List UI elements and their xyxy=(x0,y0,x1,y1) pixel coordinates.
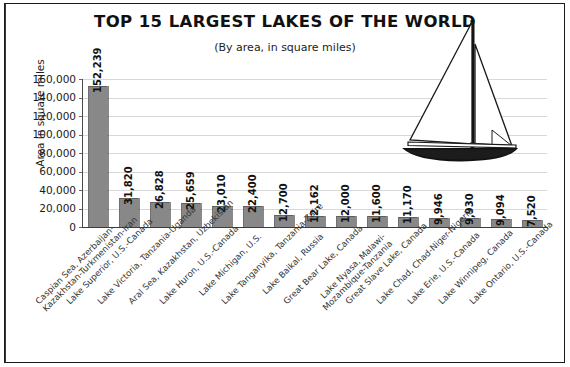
y-tick-label: 40,000 xyxy=(14,184,76,196)
y-tick-label: 100,000 xyxy=(14,128,76,140)
bar-value-label: 11,170 xyxy=(402,185,413,224)
bar-value-label: 11,600 xyxy=(371,185,382,224)
y-tick-label: 60,000 xyxy=(14,165,76,177)
y-tick-label: 160,000 xyxy=(14,73,76,85)
y-tick-label: 120,000 xyxy=(14,110,76,122)
gridline xyxy=(82,172,547,173)
x-axis-line xyxy=(82,227,548,228)
y-tick-label: 80,000 xyxy=(14,147,76,159)
bar xyxy=(88,86,107,227)
bar-value-label: 26,828 xyxy=(154,171,165,210)
bar-value-label: 22,400 xyxy=(247,175,258,214)
bar-value-label: 9,094 xyxy=(495,194,506,226)
bar-value-label: 7,520 xyxy=(526,195,537,227)
y-tick-label: 140,000 xyxy=(14,91,76,103)
chart-page: TOP 15 LARGEST LAKES OF THE WORLD (By ar… xyxy=(0,0,570,367)
bar-value-label: 9,946 xyxy=(433,193,444,225)
y-tick-label: 20,000 xyxy=(14,202,76,214)
y-tick-label: 0 xyxy=(14,221,76,233)
sailboat-illustration xyxy=(396,18,524,164)
y-axis-line xyxy=(82,79,83,228)
bar-value-label: 152,239 xyxy=(92,48,103,94)
bar-value-label: 31,820 xyxy=(123,166,134,205)
bar-value-label: 12,000 xyxy=(340,184,351,223)
bar-value-label: 12,700 xyxy=(278,184,289,223)
